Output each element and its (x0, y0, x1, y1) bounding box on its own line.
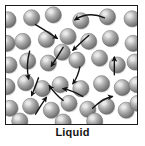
particle-sphere (114, 80, 131, 97)
particle-sphere (6, 35, 16, 52)
particle-sphere (6, 12, 17, 29)
particle-sphere (18, 75, 35, 92)
state-label: Liquid (0, 126, 145, 138)
particle-sphere (61, 95, 78, 112)
particle-sphere (52, 77, 69, 94)
particle-sphere (40, 55, 57, 72)
particle-sphere (69, 52, 86, 69)
particle-sphere (91, 50, 108, 67)
particle-sphere (6, 57, 18, 74)
particle-sphere (102, 30, 119, 47)
particle-sphere (124, 11, 137, 28)
particle-sphere (6, 79, 16, 96)
liquid-particle-diagram: Liquid (0, 0, 145, 146)
particle-sphere (15, 33, 32, 50)
particle-sphere (24, 10, 41, 27)
particle-sphere (60, 28, 77, 45)
particle-sphere (93, 76, 110, 93)
particle-box (5, 5, 138, 125)
particle-sphere (127, 54, 137, 71)
particle-sphere (45, 7, 62, 24)
particles-layer (6, 7, 137, 124)
particle-sphere (38, 31, 55, 48)
particle-sphere (109, 57, 126, 74)
particle-sphere (125, 35, 137, 52)
particle-svg (6, 6, 137, 124)
